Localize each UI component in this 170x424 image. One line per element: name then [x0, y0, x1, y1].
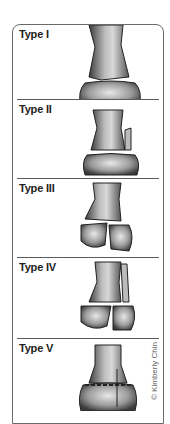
panel-type-2: Type II	[13, 100, 163, 178]
diagram-card: Type I Type II Type III Type IV	[12, 24, 164, 424]
bone-type-3-illustration	[41, 179, 141, 257]
bone-type-2-illustration	[41, 100, 141, 178]
image-credit: © Kimberly Chin	[150, 342, 159, 400]
panel-type-3: Type III	[13, 179, 163, 257]
bone-type-4-illustration	[41, 258, 141, 338]
panel-type-4: Type IV	[13, 258, 163, 338]
panel-type-1: Type I	[13, 25, 163, 99]
panel-type-5: Type V	[13, 339, 163, 411]
bone-type-1-illustration	[41, 25, 141, 99]
bone-type-5-illustration	[41, 339, 141, 411]
